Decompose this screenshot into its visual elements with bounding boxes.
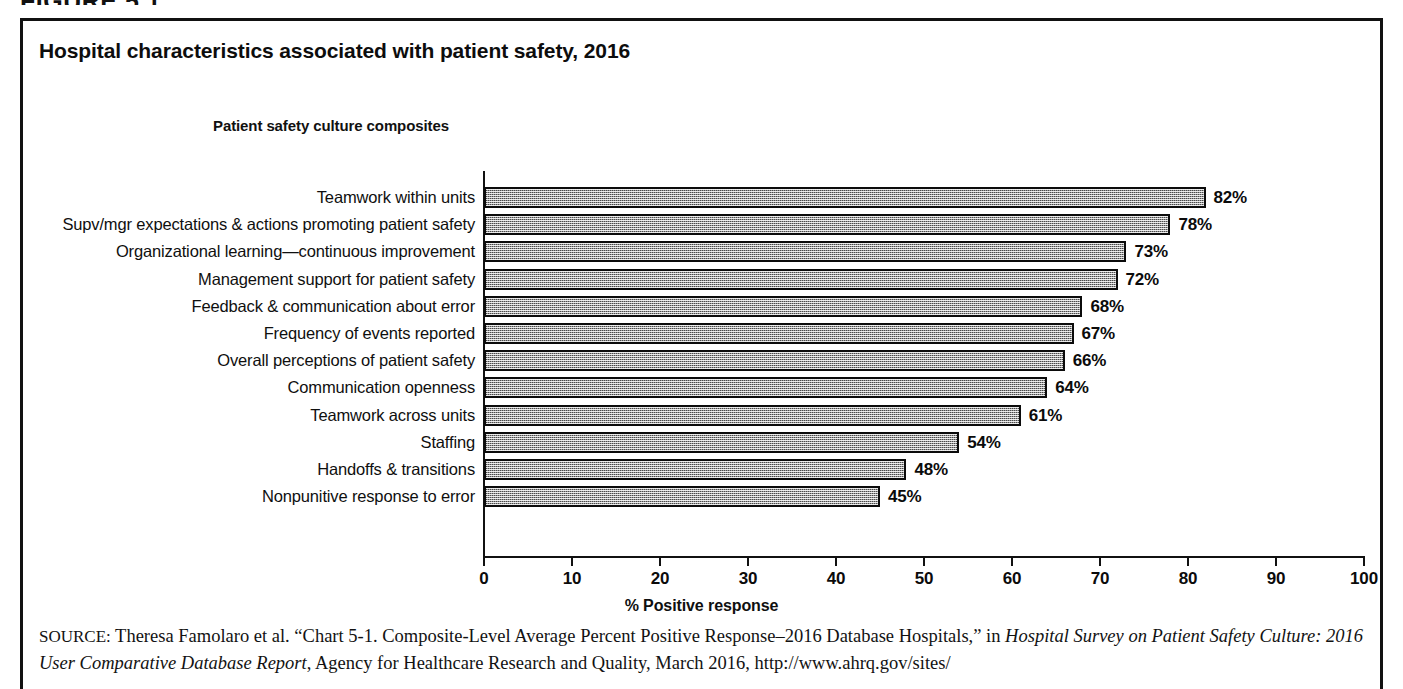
bar-row: Organizational learning—continuous impro… <box>23 239 1380 266</box>
bar-label-wrap: Staffing <box>23 430 475 457</box>
bar-value-label: 64% <box>1055 378 1088 398</box>
x-tick-label: 10 <box>563 569 582 589</box>
bar-value-label: 72% <box>1126 270 1159 290</box>
bar-row: Management support for patient safety72% <box>23 267 1380 294</box>
bar-category-label: Management support for patient safety <box>23 270 475 289</box>
x-tick-mark <box>659 556 661 566</box>
bar-label-wrap: Teamwork within units <box>23 185 475 212</box>
x-tick-label: 80 <box>1179 569 1198 589</box>
bar <box>484 241 1126 262</box>
source-text-a: Theresa Famolaro et al. “Chart 5-1. Comp… <box>111 626 1005 646</box>
x-tick-label: 30 <box>739 569 758 589</box>
x-tick-mark <box>1011 556 1013 566</box>
bar-row: Communication openness64% <box>23 375 1380 402</box>
x-tick-label: 40 <box>827 569 846 589</box>
bar <box>484 377 1047 398</box>
bar-value-label: 67% <box>1082 324 1115 344</box>
bar-chart-plot: Teamwork within units82%Supv/mgr expecta… <box>23 171 1380 561</box>
chart-area: Patient safety culture composites Teamwo… <box>23 21 1380 621</box>
bar-value-label: 73% <box>1134 242 1167 262</box>
bar-value-label: 45% <box>888 487 921 507</box>
bar <box>484 486 880 507</box>
bar-value-label: 68% <box>1090 297 1123 317</box>
x-tick-label: 60 <box>1003 569 1022 589</box>
x-tick-mark <box>923 556 925 566</box>
bar-row: Supv/mgr expectations & actions promotin… <box>23 212 1380 239</box>
bar-label-wrap: Teamwork across units <box>23 403 475 430</box>
bar-row: Teamwork across units61% <box>23 403 1380 430</box>
bar <box>484 459 906 480</box>
bar <box>484 350 1065 371</box>
bar-row: Feedback & communication about error68% <box>23 294 1380 321</box>
bar-value-label: 78% <box>1178 215 1211 235</box>
bar <box>484 296 1082 317</box>
x-tick-mark <box>1363 556 1365 566</box>
bar-row: Staffing54% <box>23 430 1380 457</box>
bar-label-wrap: Frequency of events reported <box>23 321 475 348</box>
bar-label-wrap: Feedback & communication about error <box>23 294 475 321</box>
bar-category-label: Feedback & communication about error <box>23 297 475 316</box>
bar-row: Handoffs & transitions48% <box>23 457 1380 484</box>
x-tick-label: 90 <box>1267 569 1286 589</box>
bar-label-wrap: Nonpunitive response to error <box>23 484 475 511</box>
x-tick-mark <box>571 556 573 566</box>
bar-row: Nonpunitive response to error45% <box>23 484 1380 511</box>
bar-category-label: Handoffs & transitions <box>23 460 475 479</box>
bar <box>484 432 959 453</box>
x-tick-label: 70 <box>1091 569 1110 589</box>
source-text-b: , Agency for Healthcare Research and Qua… <box>307 653 951 673</box>
bar-label-wrap: Supv/mgr expectations & actions promotin… <box>23 212 475 239</box>
bar-category-label: Teamwork across units <box>23 406 475 425</box>
bar-category-label: Communication openness <box>23 378 475 397</box>
bar-value-label: 66% <box>1073 351 1106 371</box>
bar-category-label: Frequency of events reported <box>23 324 475 343</box>
x-tick-label: 100 <box>1350 569 1378 589</box>
x-axis-title: % Positive response <box>23 597 1380 615</box>
bar-category-label: Overall perceptions of patient safety <box>23 351 475 370</box>
bar-label-wrap: Handoffs & transitions <box>23 457 475 484</box>
bar-value-label: 48% <box>914 460 947 480</box>
figure-running-head: FIGURE 5.1 <box>20 0 161 5</box>
bar-row: Teamwork within units82% <box>23 185 1380 212</box>
bar-label-wrap: Communication openness <box>23 375 475 402</box>
bar-category-label: Organizational learning—continuous impro… <box>23 242 475 261</box>
x-tick-mark <box>1275 556 1277 566</box>
x-tick-label: 0 <box>479 569 488 589</box>
bar <box>484 323 1074 344</box>
bar <box>484 405 1021 426</box>
x-tick-label: 50 <box>915 569 934 589</box>
x-tick-label: 20 <box>651 569 670 589</box>
bar <box>484 214 1170 235</box>
x-tick-mark <box>1099 556 1101 566</box>
x-tick-mark <box>1187 556 1189 566</box>
x-tick-mark <box>747 556 749 566</box>
bar <box>484 269 1118 290</box>
chart-subtitle: Patient safety culture composites <box>213 117 449 134</box>
bar <box>484 187 1206 208</box>
x-tick-mark <box>483 556 485 566</box>
bar-value-label: 54% <box>967 433 1000 453</box>
bar-category-label: Nonpunitive response to error <box>23 487 475 506</box>
bar-label-wrap: Overall perceptions of patient safety <box>23 348 475 375</box>
bar-value-label: 82% <box>1214 188 1247 208</box>
bar-value-label: 61% <box>1029 406 1062 426</box>
x-tick-mark <box>835 556 837 566</box>
bar-label-wrap: Management support for patient safety <box>23 267 475 294</box>
bar-row: Overall perceptions of patient safety66% <box>23 348 1380 375</box>
bar-category-label: Supv/mgr expectations & actions promotin… <box>23 215 475 234</box>
bar-category-label: Staffing <box>23 433 475 452</box>
source-label: SOURCE: <box>39 627 111 646</box>
bar-label-wrap: Organizational learning—continuous impro… <box>23 239 475 266</box>
source-note: SOURCE: Theresa Famolaro et al. “Chart 5… <box>39 623 1369 676</box>
bar-row: Frequency of events reported67% <box>23 321 1380 348</box>
figure-box: Hospital characteristics associated with… <box>20 18 1383 689</box>
bar-category-label: Teamwork within units <box>23 188 475 207</box>
source-italic-1: Hospital Survey on <box>1005 626 1147 646</box>
